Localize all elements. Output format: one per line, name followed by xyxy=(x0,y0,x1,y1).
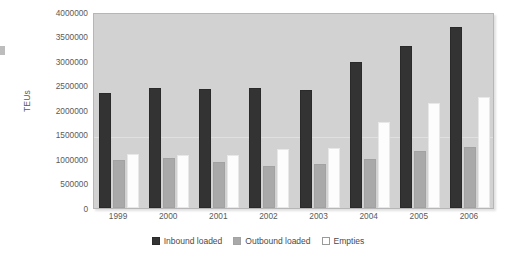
x-axis-tick-labels: 19992000200120022003200420052006 xyxy=(93,211,494,225)
bar-empties[interactable] xyxy=(478,97,490,208)
legend-swatch-icon xyxy=(322,237,330,245)
bar-inbound[interactable] xyxy=(300,90,312,208)
x-axis-tick-label: 2006 xyxy=(449,211,489,221)
bar-outbound[interactable] xyxy=(464,147,476,208)
bar-group xyxy=(395,14,445,208)
legend-item-inbound[interactable]: Inbound loaded xyxy=(152,236,223,246)
plot-inner xyxy=(94,14,493,208)
x-axis-tick-label: 2003 xyxy=(299,211,339,221)
bar-inbound[interactable] xyxy=(99,93,111,208)
bar-inbound[interactable] xyxy=(199,89,211,208)
legend-swatch-icon xyxy=(152,237,160,245)
bar-empties[interactable] xyxy=(177,155,189,208)
y-axis-tick-label: 4000000 xyxy=(28,9,88,18)
y-axis-tick-label: 3000000 xyxy=(28,58,88,67)
bar-group xyxy=(144,14,194,208)
bar-outbound[interactable] xyxy=(314,164,326,208)
bar-outbound[interactable] xyxy=(113,160,125,208)
y-axis-tick-labels: 4000000350000030000002500000200000015000… xyxy=(28,0,88,263)
bar-inbound[interactable] xyxy=(350,62,362,208)
bar-outbound[interactable] xyxy=(364,159,376,208)
y-axis-tick-label: 3500000 xyxy=(28,33,88,42)
page-edge-mark xyxy=(0,46,5,55)
bar-empties[interactable] xyxy=(127,154,139,208)
x-axis-tick-label: 2002 xyxy=(248,211,288,221)
bar-outbound[interactable] xyxy=(213,162,225,208)
bar-empties[interactable] xyxy=(328,148,340,208)
bar-inbound[interactable] xyxy=(249,88,261,208)
legend-label: Outbound loaded xyxy=(245,236,310,246)
bar-group xyxy=(295,14,345,208)
plot-area xyxy=(93,13,494,209)
legend-swatch-icon xyxy=(233,237,241,245)
y-axis-tick-label: 2500000 xyxy=(28,82,88,91)
bar-outbound[interactable] xyxy=(414,151,426,208)
legend-item-outbound[interactable]: Outbound loaded xyxy=(233,236,310,246)
bar-empties[interactable] xyxy=(227,155,239,208)
y-axis-tick-label: 1000000 xyxy=(28,156,88,165)
bar-outbound[interactable] xyxy=(163,158,175,208)
y-axis-tick-label: 1500000 xyxy=(28,131,88,140)
bar-outbound[interactable] xyxy=(263,166,275,208)
legend-label: Inbound loaded xyxy=(164,236,223,246)
bar-empties[interactable] xyxy=(428,103,440,208)
chart-legend: Inbound loadedOutbound loadedEmpties xyxy=(0,236,516,246)
y-axis-tick-label: 2000000 xyxy=(28,107,88,116)
bar-inbound[interactable] xyxy=(400,46,412,208)
bar-inbound[interactable] xyxy=(450,27,462,208)
bar-group xyxy=(345,14,395,208)
bar-group xyxy=(445,14,494,208)
bar-chart: TEUs 40000003500000300000025000002000000… xyxy=(0,0,516,263)
legend-item-empties[interactable]: Empties xyxy=(322,236,365,246)
x-axis-tick-label: 2005 xyxy=(399,211,439,221)
bar-group xyxy=(194,14,244,208)
x-axis-tick-label: 2004 xyxy=(349,211,389,221)
bar-inbound[interactable] xyxy=(149,88,161,208)
x-axis-tick-label: 2001 xyxy=(198,211,238,221)
bar-group xyxy=(94,14,144,208)
x-axis-tick-label: 2000 xyxy=(148,211,188,221)
y-axis-tick-label: 500000 xyxy=(28,180,88,189)
legend-label: Empties xyxy=(334,236,365,246)
bar-group xyxy=(244,14,294,208)
x-axis-tick-label: 1999 xyxy=(98,211,138,221)
y-axis-tick-label: 0 xyxy=(28,205,88,214)
bar-empties[interactable] xyxy=(378,122,390,208)
bar-empties[interactable] xyxy=(277,149,289,208)
